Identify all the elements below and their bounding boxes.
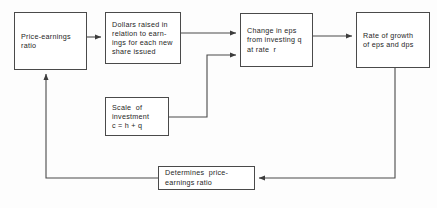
node-price-earnings-ratio: Price-earnings ratio [14,12,87,70]
node-text-line: Dollars raised in [112,20,176,29]
node-change-in-eps: Change in eps from investing q at rate r [240,13,313,67]
node-text-line: from investing q [247,35,308,44]
node-text-line: Change in eps [247,26,308,35]
node-text-line: at rate r [247,45,308,54]
node-text-line: of eps and dps [363,40,425,49]
edge-rate-to-determines [259,68,395,178]
node-scale-of-investment: Scale of investment c = h + q [105,97,169,136]
node-text-line: share issued [112,47,176,56]
node-text-line: Scale of [112,103,164,112]
node-determines-price-earnings-ratio: Determines price- earnings ratio [158,166,255,190]
node-text-line: ings for each new [112,38,176,47]
edge-scale-to-change [169,55,236,117]
node-text-line: earnings ratio [165,178,250,188]
flowchart-diagram: Price-earnings ratio Dollars raised in r… [0,0,437,208]
node-text-line: c = h + q [112,121,164,130]
node-text-line: Price-earnings [21,32,82,41]
node-text-line: relation to earn- [112,29,176,38]
node-text-line: investment [112,112,164,121]
node-dollars-raised: Dollars raised in relation to earn- ings… [105,12,181,64]
node-text-line: ratio [21,41,82,50]
node-rate-of-growth: Rate of growth of eps and dps [356,12,430,68]
node-text-line: Determines price- [165,168,250,178]
node-text-line: Rate of growth [363,31,425,40]
